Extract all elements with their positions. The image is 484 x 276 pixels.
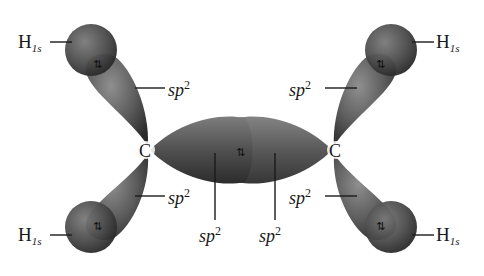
h1s-sphere-top-right [365, 24, 417, 76]
electron-pair-icon: ⇅ [236, 146, 245, 159]
label-h1s-bottom-left: H1s [18, 224, 42, 247]
cc-sigma-bond: ⇅ [150, 116, 332, 183]
label-sp2-top-right: sp2 [289, 78, 311, 100]
label-sp2-center-right: sp2 [259, 224, 281, 246]
label-h1s-top-left: H1s [18, 31, 42, 54]
carbon-label-left: C [139, 141, 151, 161]
ch-bond-top-left: ⇅ [65, 24, 148, 146]
h1s-sphere-bottom-right [365, 201, 417, 253]
ethylene-sp2-orbital-diagram: ⇅ ⇅ ⇅ ⇅ ⇅ C C [0, 0, 484, 276]
electron-pair-icon: ⇅ [376, 220, 385, 233]
ch-bond-top-right: ⇅ [334, 24, 417, 146]
label-h1s-bottom-right: H1s [436, 224, 460, 247]
label-sp2-center-left: sp2 [199, 224, 221, 246]
ch-bond-bottom-left: ⇅ [65, 154, 148, 253]
label-sp2-bottom-left: sp2 [168, 186, 190, 208]
label-sp2-top-left: sp2 [168, 78, 190, 100]
electron-pair-icon: ⇅ [376, 58, 385, 71]
label-sp2-bottom-right: sp2 [289, 186, 311, 208]
h1s-sphere-bottom-left [65, 201, 117, 253]
ch-bond-bottom-right: ⇅ [334, 154, 417, 253]
label-h1s-top-right: H1s [436, 31, 460, 54]
h1s-sphere-top-left [65, 24, 117, 76]
electron-pair-icon: ⇅ [93, 58, 102, 71]
carbon-label-right: C [329, 141, 341, 161]
electron-pair-icon: ⇅ [93, 220, 102, 233]
